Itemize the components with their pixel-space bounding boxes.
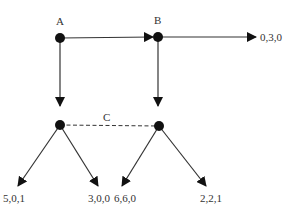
- payoff-label-300: 3,0,0: [88, 193, 110, 204]
- node-a: [55, 33, 65, 43]
- node-c1: [55, 120, 65, 130]
- edge-c2-to-payoff-221: [159, 126, 206, 186]
- node-b: [153, 32, 163, 42]
- node-c2: [154, 121, 164, 131]
- payoff-label-221: 2,2,1: [200, 193, 222, 204]
- game-tree-diagram: [0, 0, 295, 210]
- payoff-label-501: 5,0,1: [3, 193, 25, 204]
- information-set-c-dashed-line: [60, 125, 159, 126]
- payoff-label-660: 6,6,0: [114, 193, 136, 204]
- edge-a-to-b: [60, 37, 153, 38]
- edge-c1-to-payoff-300: [60, 125, 98, 186]
- payoff-label-030: 0,3,0: [260, 32, 282, 43]
- edge-c2-to-payoff-660: [122, 126, 159, 186]
- information-set-label: C: [103, 112, 110, 123]
- node-b-label: B: [154, 15, 161, 26]
- node-a-label: A: [56, 16, 64, 27]
- edge-c1-to-payoff-501: [18, 125, 60, 186]
